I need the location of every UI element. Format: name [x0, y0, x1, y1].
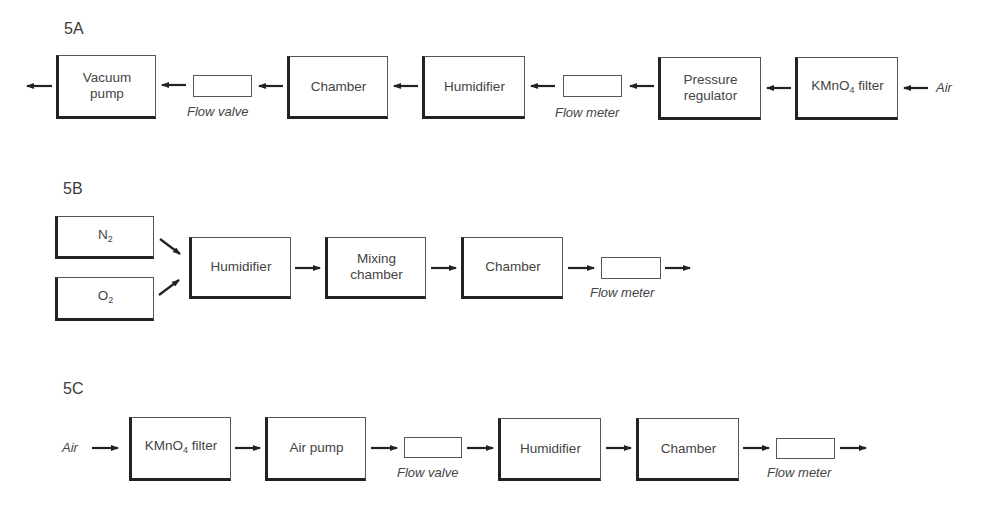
- o2-subscript: 2: [108, 295, 113, 305]
- o2-source-box: O2: [55, 277, 154, 321]
- kmno4-suffix: filter: [855, 78, 884, 93]
- panel-5c-label: 5C: [63, 380, 83, 398]
- vacuum-pump-line1: Vacuum: [83, 70, 132, 86]
- air-input-label: Air: [62, 440, 78, 455]
- flow-meter-rect: [776, 438, 835, 459]
- mixing-chamber-line2: chamber: [350, 267, 403, 283]
- chamber-label: Chamber: [661, 441, 717, 457]
- flow-valve-rect: [404, 437, 462, 458]
- kmno4-filter-box: KMnO4 filter: [129, 417, 231, 481]
- n2-text: N: [98, 227, 108, 242]
- flow-valve-caption: Flow valve: [397, 465, 458, 480]
- kmno4-filter-box: KMnO4 filter: [795, 57, 898, 120]
- flow-meter-rect: [563, 75, 622, 97]
- flow-valve-rect: [193, 75, 252, 97]
- air-pump-box: Air pump: [265, 417, 366, 481]
- humidifier-label: Humidifier: [520, 441, 581, 457]
- chamber-box: Chamber: [636, 418, 739, 481]
- vacuum-pump-box: Vacuum pump: [56, 55, 156, 119]
- mixing-chamber-line1: Mixing: [350, 251, 403, 267]
- vacuum-pump-line2: pump: [83, 86, 132, 102]
- kmno4-text: KMnO: [145, 438, 183, 453]
- humidifier-box: Humidifier: [498, 418, 601, 481]
- air-pump-label: Air pump: [289, 440, 343, 456]
- humidifier-box: Humidifier: [422, 56, 525, 119]
- mixing-chamber-box: Mixing chamber: [325, 237, 426, 299]
- flow-meter-caption: Flow meter: [767, 465, 831, 480]
- panel-5a-label: 5A: [64, 20, 84, 38]
- flow-meter-caption: Flow meter: [555, 105, 619, 120]
- air-input-label: Air: [936, 80, 952, 95]
- n2-source-box: N2: [55, 216, 154, 259]
- humidifier-box: Humidifier: [189, 237, 291, 299]
- kmno4-suffix: filter: [188, 438, 217, 453]
- chamber-label: Chamber: [311, 79, 367, 95]
- n2-subscript: 2: [108, 234, 113, 244]
- o2-text: O: [98, 288, 109, 303]
- flow-meter-caption: Flow meter: [590, 285, 654, 300]
- pressure-regulator-line1: Pressure: [683, 72, 737, 88]
- flow-valve-caption: Flow valve: [187, 104, 248, 119]
- panel-5b-label: 5B: [63, 180, 83, 198]
- pressure-regulator-line2: regulator: [683, 88, 737, 104]
- humidifier-label: Humidifier: [211, 259, 272, 275]
- pressure-regulator-box: Pressure regulator: [658, 57, 761, 120]
- kmno4-text: KMnO: [811, 78, 849, 93]
- chamber-box: Chamber: [461, 237, 563, 299]
- chamber-label: Chamber: [485, 259, 541, 275]
- chamber-box: Chamber: [287, 56, 388, 119]
- flow-meter-rect: [601, 257, 661, 279]
- humidifier-label: Humidifier: [444, 79, 505, 95]
